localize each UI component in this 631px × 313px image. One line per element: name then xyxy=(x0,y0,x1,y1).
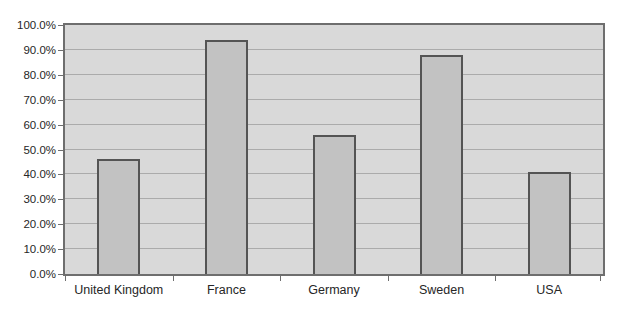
y-tick-label: 0.0% xyxy=(8,268,56,280)
y-tick-label: 80.0% xyxy=(8,69,56,81)
gridline-80 xyxy=(65,74,603,75)
bar-usa xyxy=(528,172,571,274)
y-tick-label: 90.0% xyxy=(8,44,56,56)
gridline-70 xyxy=(65,99,603,100)
y-tick-mark xyxy=(58,224,63,225)
gridline-90 xyxy=(65,49,603,50)
y-tick-mark xyxy=(58,125,63,126)
y-tick-mark xyxy=(58,174,63,175)
y-tick-mark xyxy=(58,100,63,101)
gridline-60 xyxy=(65,124,603,125)
x-tick-mark xyxy=(280,276,281,281)
y-tick-mark xyxy=(58,150,63,151)
y-tick-label: 30.0% xyxy=(8,193,56,205)
bar-sweden xyxy=(420,55,463,274)
y-tick-mark xyxy=(58,274,63,275)
y-tick-label: 50.0% xyxy=(8,144,56,156)
x-category-label-germany: Germany xyxy=(308,283,359,297)
x-tick-mark xyxy=(388,276,389,281)
x-category-label-united-kingdom: United Kingdom xyxy=(74,283,163,297)
x-category-label-sweden: Sweden xyxy=(419,283,464,297)
x-tick-mark xyxy=(173,276,174,281)
bar-germany xyxy=(313,135,356,274)
plot-area xyxy=(63,23,605,276)
x-tick-mark xyxy=(600,276,601,281)
x-category-label-france: France xyxy=(207,283,246,297)
y-tick-label: 60.0% xyxy=(8,119,56,131)
y-tick-label: 100.0% xyxy=(8,19,56,31)
y-tick-mark xyxy=(58,199,63,200)
y-tick-label: 10.0% xyxy=(8,243,56,255)
y-tick-mark xyxy=(58,249,63,250)
y-tick-mark xyxy=(58,25,63,26)
y-tick-mark xyxy=(58,50,63,51)
x-tick-mark xyxy=(495,276,496,281)
y-tick-mark xyxy=(58,75,63,76)
bar-united-kingdom xyxy=(97,159,140,274)
x-category-label-usa: USA xyxy=(536,283,562,297)
bar-chart-figure: 0.0%10.0%20.0%30.0%40.0%50.0%60.0%70.0%8… xyxy=(0,0,631,313)
y-tick-label: 40.0% xyxy=(8,168,56,180)
y-tick-label: 20.0% xyxy=(8,218,56,230)
x-tick-mark xyxy=(65,276,66,281)
bar-france xyxy=(205,40,248,274)
y-tick-label: 70.0% xyxy=(8,94,56,106)
